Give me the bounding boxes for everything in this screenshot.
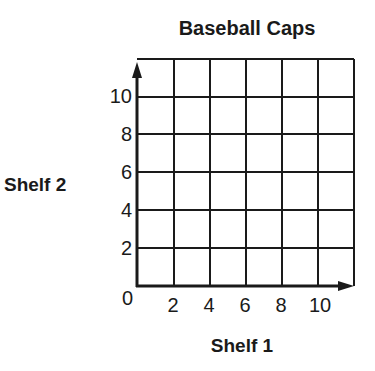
y-tick-2: 2	[121, 238, 132, 258]
y-tick-6: 6	[121, 162, 132, 182]
y-tick-10: 10	[110, 86, 132, 106]
x-tick-4: 4	[194, 295, 224, 315]
x-axis-arrow-icon	[338, 281, 354, 291]
axes	[136, 70, 344, 287]
grid	[137, 59, 354, 286]
origin-label: 0	[122, 288, 133, 308]
y-tick-4: 4	[121, 200, 132, 220]
x-tick-10: 10	[302, 295, 338, 315]
y-tick-8: 8	[121, 124, 132, 144]
x-tick-2: 2	[158, 295, 188, 315]
x-tick-8: 8	[266, 295, 296, 315]
x-tick-6: 6	[230, 295, 260, 315]
y-axis-arrow-icon	[132, 62, 142, 78]
